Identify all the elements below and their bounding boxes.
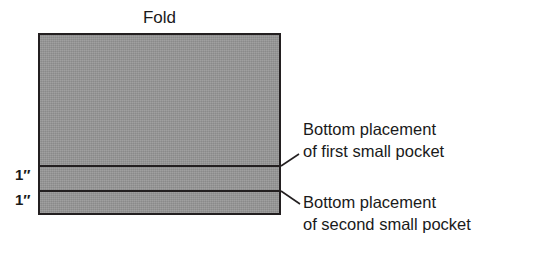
fabric-panel <box>38 33 281 215</box>
fold-label: Fold <box>38 8 281 28</box>
dimension-label-second-gap: 1″ <box>15 192 30 207</box>
callout-first-small-pocket: Bottom placement of first small pocket <box>303 119 444 163</box>
first-placement-line <box>38 165 281 167</box>
sewing-pattern-diagram: Fold 1″ 1″ Bottom placement of first sma… <box>0 0 540 264</box>
second-leader-line <box>281 191 300 204</box>
first-leader-line <box>281 154 299 166</box>
second-placement-line <box>38 190 281 192</box>
callout-second-small-pocket: Bottom placement of second small pocket <box>303 192 471 236</box>
dimension-label-first-gap: 1″ <box>15 167 30 182</box>
